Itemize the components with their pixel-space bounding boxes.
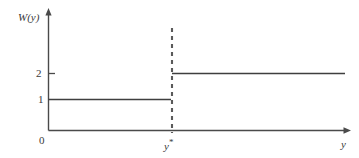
y-tick-label-1: 1 bbox=[38, 94, 44, 105]
x-axis-arrowhead bbox=[344, 127, 352, 133]
plot-area bbox=[0, 0, 359, 158]
threshold-tick-label: y* bbox=[164, 138, 173, 152]
origin-label: 0 bbox=[39, 135, 45, 146]
x-axis-label: y bbox=[341, 139, 346, 150]
y-tick-label-2: 2 bbox=[36, 68, 42, 79]
step-function-chart: W(y) y y* 2 1 0 bbox=[0, 0, 359, 158]
y-axis-label: W(y) bbox=[18, 12, 39, 23]
y-axis-arrowhead bbox=[45, 8, 51, 16]
threshold-tick-star: * bbox=[169, 137, 174, 147]
